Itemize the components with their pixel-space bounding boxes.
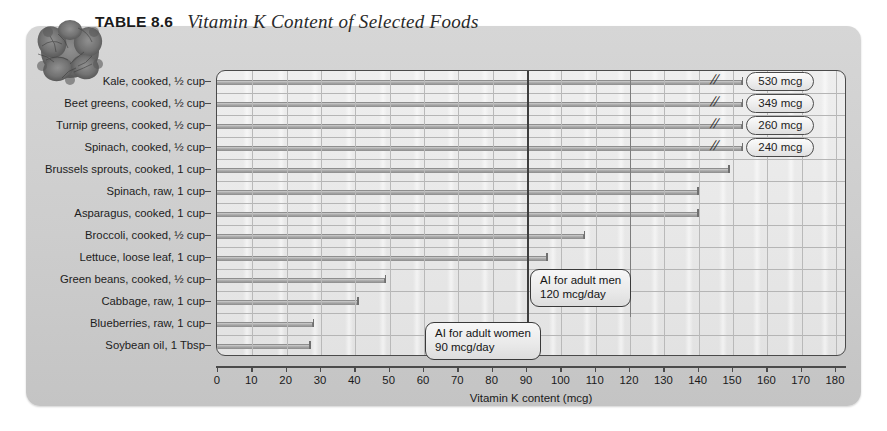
bar-end-cap xyxy=(313,319,315,327)
y-axis-label: Green beans, cooked, ½ cup xyxy=(60,273,205,285)
x-tick-label: 100 xyxy=(551,374,570,386)
x-tick xyxy=(526,366,527,372)
bar-end-cap xyxy=(728,165,730,173)
x-tick-label: 30 xyxy=(314,374,327,386)
bar-6 xyxy=(217,212,698,217)
y-axis-tick xyxy=(205,169,211,170)
x-tick xyxy=(595,366,596,372)
bar-9 xyxy=(217,278,385,283)
x-tick xyxy=(766,366,767,372)
x-tick xyxy=(354,366,355,372)
y-axis-label: Spinach, cooked, ½ cup xyxy=(84,141,205,153)
bar-end-cap xyxy=(742,143,744,151)
x-tick xyxy=(492,366,493,372)
x-tick xyxy=(801,366,802,372)
bar-end-cap xyxy=(309,341,311,349)
bar-row xyxy=(217,181,845,204)
bar-row xyxy=(217,247,845,270)
bar-end-cap xyxy=(385,275,387,283)
y-axis-label: Kale, cooked, ½ cup xyxy=(103,75,205,87)
y-axis-label: Brussels sprouts, cooked, 1 cup xyxy=(45,163,205,175)
x-tick-label: 20 xyxy=(279,374,292,386)
x-tick xyxy=(457,366,458,372)
gridline-180 xyxy=(836,71,837,355)
bar-row xyxy=(217,159,845,182)
x-tick-label: 0 xyxy=(214,374,220,386)
y-axis-tick xyxy=(205,257,211,258)
gridline-80 xyxy=(493,71,494,355)
bar-5 xyxy=(217,190,698,195)
y-axis-tick xyxy=(205,191,211,192)
x-tick-label: 120 xyxy=(620,374,639,386)
figure-root: TABLE 8.6 Vitamin K Content of Selected … xyxy=(0,0,887,431)
x-tick xyxy=(629,366,630,372)
gridline-40 xyxy=(355,71,356,355)
gridline-150 xyxy=(733,71,734,355)
y-axis-label: Turnip greens, cooked, ½ cup xyxy=(56,119,205,131)
y-axis-tick xyxy=(205,235,211,236)
value-pill: 260 mcg xyxy=(746,116,814,135)
y-axis-tick xyxy=(205,301,211,302)
bar-11 xyxy=(217,322,313,327)
value-pill: 240 mcg xyxy=(746,138,814,157)
gridline-140 xyxy=(699,71,700,355)
bar-end-cap xyxy=(742,77,744,85)
bar-end-cap xyxy=(584,231,586,239)
callout-ai-adult-women: AI for adult women90 mcg/day xyxy=(425,322,541,360)
x-tick xyxy=(663,366,664,372)
bar-rows xyxy=(217,71,845,355)
gridline-170 xyxy=(802,71,803,355)
x-tick xyxy=(835,366,836,372)
x-tick xyxy=(286,366,287,372)
bar-end-cap xyxy=(742,121,744,129)
x-axis-line xyxy=(216,366,846,368)
y-axis-label: Asparagus, cooked, 1 cup xyxy=(74,207,205,219)
bar-8 xyxy=(217,256,547,261)
x-tick-label: 60 xyxy=(417,374,430,386)
x-tick xyxy=(217,366,218,372)
plot-area xyxy=(216,70,846,356)
x-axis-title: Vitamin K content (mcg) xyxy=(216,392,846,404)
x-tick-label: 170 xyxy=(791,374,810,386)
table-number-label: TABLE 8.6 xyxy=(95,13,173,31)
y-axis-labels: Kale, cooked, ½ cupBeet greens, cooked, … xyxy=(48,70,211,356)
gridline-110 xyxy=(596,71,597,355)
x-tick-label: 90 xyxy=(520,374,533,386)
callout-line-1: AI for adult women xyxy=(435,327,531,341)
x-tick-label: 160 xyxy=(757,374,776,386)
x-tick xyxy=(251,366,252,372)
x-tick xyxy=(732,366,733,372)
x-tick xyxy=(560,366,561,372)
table-header: TABLE 8.6 Vitamin K Content of Selected … xyxy=(95,4,479,40)
bar-12 xyxy=(217,344,310,349)
x-tick-label: 80 xyxy=(485,374,498,386)
bar-end-cap xyxy=(742,99,744,107)
y-axis-tick xyxy=(205,279,211,280)
table-title: Vitamin K Content of Selected Foods xyxy=(187,11,478,33)
y-axis-tick xyxy=(205,323,211,324)
gridline-20 xyxy=(287,71,288,355)
y-axis-label: Cabbage, raw, 1 cup xyxy=(101,295,205,307)
callout-line-1: AI for adult men xyxy=(540,274,621,288)
x-tick-label: 140 xyxy=(688,374,707,386)
y-axis-tick xyxy=(205,81,211,82)
reference-line-ai-adult-women xyxy=(527,71,529,356)
bar-row xyxy=(217,203,845,226)
bar-end-cap xyxy=(546,253,548,261)
callout-ai-adult-men: AI for adult men120 mcg/day xyxy=(530,269,631,307)
x-tick-label: 70 xyxy=(451,374,464,386)
gridline-60 xyxy=(424,71,425,355)
y-axis-label: Beet greens, cooked, ½ cup xyxy=(64,97,205,109)
y-axis-tick xyxy=(205,103,211,104)
y-axis-label: Blueberries, raw, 1 cup xyxy=(90,317,205,329)
gridline-160 xyxy=(767,71,768,355)
x-tick-label: 50 xyxy=(382,374,395,386)
bar-row xyxy=(217,225,845,248)
bar-7 xyxy=(217,234,584,239)
x-tick xyxy=(389,366,390,372)
value-pill: 530 mcg xyxy=(746,72,814,91)
gridline-30 xyxy=(321,71,322,355)
x-tick-label: 150 xyxy=(723,374,742,386)
x-tick-label: 110 xyxy=(586,374,604,386)
x-tick xyxy=(423,366,424,372)
